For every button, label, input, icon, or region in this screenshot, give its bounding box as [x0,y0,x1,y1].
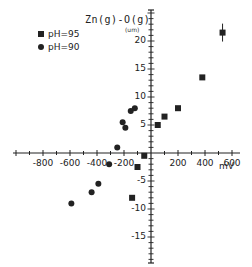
axes [13,10,240,263]
square-point [155,122,161,128]
square-point [199,74,205,80]
square-point [162,114,168,120]
x-tick-label: -200 [114,158,134,168]
x-tick-label: -400 [87,158,107,168]
square-point [141,153,147,159]
square-point [129,195,135,201]
y-tick-label: 5 [126,119,146,129]
data-points [68,24,225,207]
x-tick-label: -800 [33,158,53,168]
x-tick-label: -600 [60,158,80,168]
square-point [175,105,181,111]
square-point [220,30,226,36]
y-tick-label: -15 [126,231,146,241]
y-tick-label: 10 [126,91,146,101]
x-axis-label: mV [219,161,234,171]
x-tick-label: 200 [169,158,186,168]
circle-point [114,144,120,150]
y-tick-label: -5 [126,175,146,185]
x-tick-label: 400 [196,158,213,168]
square-point [135,164,141,170]
circle-point [132,105,138,111]
circle-point [89,189,95,195]
circle-point [68,200,74,206]
y-tick-label: 15 [126,63,146,73]
y-tick-label: 20 [126,35,146,45]
y-tick-label: -10 [126,203,146,213]
circle-point [120,119,126,125]
circle-point [95,181,101,187]
